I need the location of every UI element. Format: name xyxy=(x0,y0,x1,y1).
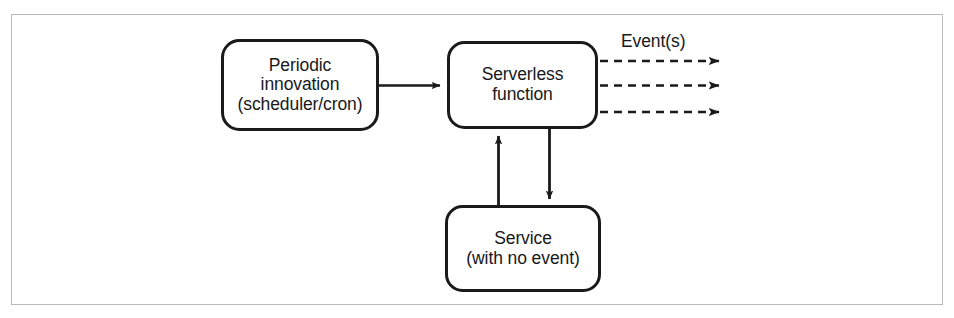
figure-container: Periodic innovation (scheduler/cron) Ser… xyxy=(0,0,954,318)
events-edge-label: Event(s) xyxy=(621,31,685,52)
node-service-with-no-event xyxy=(447,207,600,291)
node-periodic-innovation xyxy=(223,41,378,130)
node-serverless-function xyxy=(449,43,597,128)
diagram-canvas xyxy=(0,0,954,318)
